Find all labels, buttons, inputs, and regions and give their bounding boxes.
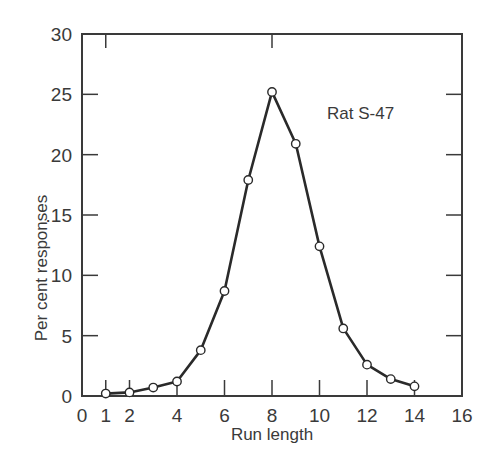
x-tick-label: 0: [77, 405, 88, 426]
y-tick-label: 25: [51, 84, 72, 105]
y-tick-label: 5: [61, 326, 72, 347]
series-annotation: Rat S-47: [327, 104, 394, 123]
y-tick-label: 10: [51, 265, 72, 286]
x-tick-label: 4: [172, 405, 183, 426]
data-point-marker: [387, 375, 395, 383]
x-tick-label: 12: [356, 405, 377, 426]
x-axis-tick-labels: 01246810121416: [77, 405, 473, 426]
data-point-marker: [244, 176, 252, 184]
data-point-marker: [363, 360, 371, 368]
y-axis-label: Per cent responses: [32, 195, 51, 341]
x-tick-label: 16: [451, 405, 472, 426]
data-point-marker: [102, 389, 110, 397]
data-point-marker: [339, 324, 347, 332]
x-axis-label: Run length: [231, 425, 313, 444]
data-point-marker: [410, 382, 418, 390]
x-tick-label: 2: [124, 405, 135, 426]
data-point-marker: [220, 287, 228, 295]
y-tick-label: 0: [61, 386, 72, 407]
y-axis-ticks: [82, 94, 462, 335]
x-tick-label: 10: [309, 405, 330, 426]
x-tick-label: 6: [219, 405, 230, 426]
data-point-marker: [292, 140, 300, 148]
data-point-marker: [197, 346, 205, 354]
x-tick-label: 1: [100, 405, 111, 426]
line-chart: 0510.15202530 01246810121416 Rat S-47 Ru…: [0, 0, 496, 473]
data-point-marker: [173, 377, 181, 385]
y-tick-label: 20: [51, 145, 72, 166]
data-point-marker: [125, 388, 133, 396]
y-tick-label: 30: [51, 24, 72, 45]
x-axis-ticks: [106, 34, 415, 396]
x-tick-label: 14: [404, 405, 426, 426]
data-point-marker: [149, 383, 157, 391]
data-point-marker: [315, 242, 323, 250]
data-point-marker: [268, 88, 276, 96]
series-line: [106, 92, 415, 394]
x-tick-label: 8: [267, 405, 278, 426]
